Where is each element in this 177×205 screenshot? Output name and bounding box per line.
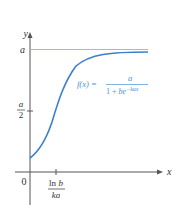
- logistic-chart: y x a a 2 0 ln b ka f(x) = a 1 + be−kax: [0, 0, 177, 205]
- x-tick-label-ln-b: ln b: [49, 178, 63, 188]
- function-denominator: 1 + be−kax: [106, 86, 139, 96]
- function-lhs: f(x) =: [77, 79, 97, 89]
- y-tick-label-half-num: a: [19, 99, 24, 109]
- x-tick-label-ka: ka: [52, 190, 61, 200]
- x-tick-label-zero: 0: [22, 176, 27, 187]
- function-numerator: a: [128, 73, 132, 83]
- y-axis-label: y: [23, 28, 29, 39]
- logistic-curve: [30, 52, 148, 158]
- x-axis-label: x: [166, 166, 172, 177]
- y-tick-label-a: a: [20, 44, 25, 55]
- y-axis-arrow-icon: [28, 32, 33, 38]
- x-axis-arrow-icon: [157, 170, 163, 175]
- y-tick-label-half-den: 2: [19, 110, 24, 120]
